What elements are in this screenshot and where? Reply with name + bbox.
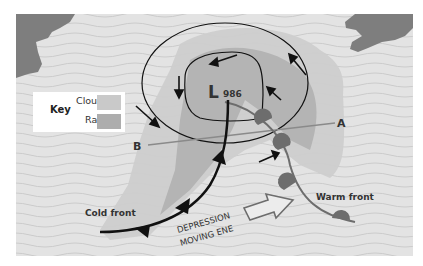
low-pressure-symbol: L (208, 82, 219, 102)
warm-front-label: Warm front (316, 192, 375, 202)
key-cloud-swatch (97, 95, 121, 110)
map-key: Key Cloud Rain (33, 92, 125, 132)
point-a-label: A (337, 117, 346, 130)
weather-map: L 986 A B Cold front Warm front DEPRESSI… (0, 0, 423, 266)
pressure-value: 986 (223, 89, 242, 99)
key-rain-swatch (97, 114, 121, 129)
key-title: Key (50, 104, 71, 115)
point-b-label: B (133, 140, 141, 153)
cold-front-label: Cold front (85, 208, 136, 218)
